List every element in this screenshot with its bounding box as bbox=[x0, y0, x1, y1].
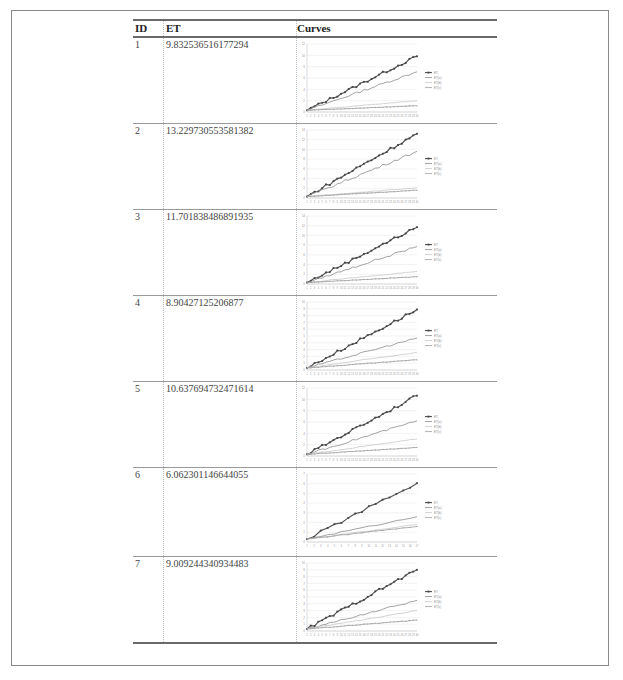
svg-text:3: 3 bbox=[303, 609, 305, 613]
svg-text:ET(b): ET(b) bbox=[434, 81, 442, 85]
svg-text:ET(c): ET(c) bbox=[434, 516, 441, 520]
results-table: ID ET Curves 1 9.832536516177294 0246810… bbox=[133, 19, 497, 644]
svg-text:9: 9 bbox=[337, 200, 339, 204]
svg-text:1: 1 bbox=[306, 372, 308, 376]
svg-text:8: 8 bbox=[333, 458, 335, 462]
curve-chart: 0246810121412345678910111213141516171819… bbox=[297, 124, 473, 208]
table-row: 2 13.229730553581382 0246810121412345678… bbox=[133, 124, 497, 210]
svg-text:14: 14 bbox=[302, 128, 306, 132]
svg-text:7: 7 bbox=[329, 200, 331, 204]
svg-text:2: 2 bbox=[303, 443, 305, 447]
svg-text:3: 3 bbox=[320, 544, 322, 548]
svg-text:8: 8 bbox=[303, 65, 305, 69]
svg-text:4: 4 bbox=[303, 177, 305, 181]
svg-text:9: 9 bbox=[337, 458, 339, 462]
svg-text:3: 3 bbox=[314, 200, 316, 204]
svg-text:2: 2 bbox=[313, 544, 315, 548]
svg-text:0: 0 bbox=[303, 540, 305, 544]
svg-text:2: 2 bbox=[303, 272, 305, 276]
svg-text:6: 6 bbox=[303, 588, 305, 592]
svg-text:9: 9 bbox=[337, 286, 339, 290]
svg-text:ET: ET bbox=[434, 243, 438, 247]
svg-text:2: 2 bbox=[310, 200, 312, 204]
cell-et: 8.90427125206877 bbox=[164, 296, 297, 382]
svg-text:ET: ET bbox=[434, 415, 438, 419]
svg-text:5: 5 bbox=[321, 633, 323, 637]
cell-et: 9.832536516177294 bbox=[164, 37, 297, 124]
cell-curves: 0246810121234567891011121314151617181920… bbox=[297, 37, 498, 124]
svg-text:7: 7 bbox=[303, 321, 305, 325]
curve-chart: 0246810121412345678910111213141516171819… bbox=[297, 210, 473, 294]
cell-curves: 0123456789101234567891011121314151617181… bbox=[297, 296, 498, 382]
svg-text:5: 5 bbox=[321, 200, 323, 204]
table-row: 7 9.009244340934483 01234567891012345678… bbox=[133, 557, 497, 644]
svg-text:1: 1 bbox=[306, 114, 308, 118]
header-et: ET bbox=[164, 20, 297, 37]
table-header-row: ID ET Curves bbox=[133, 20, 497, 37]
svg-text:6: 6 bbox=[325, 200, 327, 204]
svg-text:8: 8 bbox=[303, 157, 305, 161]
svg-text:4: 4 bbox=[303, 263, 305, 267]
header-curves: Curves bbox=[297, 20, 498, 37]
cell-id: 2 bbox=[133, 124, 164, 210]
svg-text:2: 2 bbox=[310, 633, 312, 637]
svg-text:5: 5 bbox=[334, 544, 336, 548]
svg-text:1: 1 bbox=[306, 200, 308, 204]
svg-text:9: 9 bbox=[303, 307, 305, 311]
svg-text:ET: ET bbox=[434, 329, 438, 333]
svg-text:4: 4 bbox=[318, 200, 320, 204]
svg-text:ET(a): ET(a) bbox=[434, 595, 442, 599]
svg-text:6: 6 bbox=[303, 482, 305, 486]
svg-text:3: 3 bbox=[314, 458, 316, 462]
cell-et: 9.009244340934483 bbox=[164, 557, 297, 644]
svg-text:14: 14 bbox=[302, 214, 306, 218]
curve-chart: 0246810121234567891011121314151617181920… bbox=[297, 38, 473, 122]
svg-text:1: 1 bbox=[303, 361, 305, 365]
svg-text:12: 12 bbox=[302, 138, 306, 142]
svg-text:9: 9 bbox=[337, 633, 339, 637]
svg-text:8: 8 bbox=[333, 114, 335, 118]
cell-curves: 0246810121412345678910111213141516171819… bbox=[297, 210, 498, 296]
svg-text:30: 30 bbox=[416, 372, 419, 376]
svg-text:13: 13 bbox=[388, 544, 391, 548]
svg-text:5: 5 bbox=[321, 114, 323, 118]
svg-text:8: 8 bbox=[333, 200, 335, 204]
svg-text:9: 9 bbox=[303, 568, 305, 572]
svg-text:8: 8 bbox=[333, 286, 335, 290]
svg-text:2: 2 bbox=[303, 355, 305, 359]
svg-text:8: 8 bbox=[303, 243, 305, 247]
table-row: 1 9.832536516177294 02468101212345678910… bbox=[133, 37, 497, 124]
svg-text:4: 4 bbox=[303, 432, 305, 436]
svg-text:4: 4 bbox=[303, 602, 305, 606]
svg-text:1: 1 bbox=[306, 458, 308, 462]
svg-text:ET(b): ET(b) bbox=[434, 425, 442, 429]
svg-text:ET(a): ET(a) bbox=[434, 248, 442, 252]
cell-id: 1 bbox=[133, 37, 164, 124]
svg-text:10: 10 bbox=[302, 148, 306, 152]
cell-id: 3 bbox=[133, 210, 164, 296]
svg-text:ET(c): ET(c) bbox=[434, 258, 441, 262]
svg-text:4: 4 bbox=[303, 88, 305, 92]
svg-text:5: 5 bbox=[321, 458, 323, 462]
svg-text:5: 5 bbox=[303, 334, 305, 338]
svg-text:1: 1 bbox=[303, 530, 305, 534]
cell-curves: 0123456789101234567891011121314151617181… bbox=[297, 557, 498, 644]
svg-text:8: 8 bbox=[303, 575, 305, 579]
svg-text:7: 7 bbox=[303, 582, 305, 586]
svg-text:ET(b): ET(b) bbox=[434, 339, 442, 343]
svg-text:10: 10 bbox=[302, 234, 306, 238]
svg-text:0: 0 bbox=[303, 196, 305, 200]
svg-text:ET(a): ET(a) bbox=[434, 420, 442, 424]
svg-text:ET(a): ET(a) bbox=[434, 162, 442, 166]
curve-chart: 012345671234567891011121314151617ETET(a)… bbox=[297, 468, 473, 552]
svg-text:6: 6 bbox=[303, 167, 305, 171]
svg-text:0: 0 bbox=[303, 454, 305, 458]
svg-text:4: 4 bbox=[303, 341, 305, 345]
svg-text:5: 5 bbox=[303, 492, 305, 496]
svg-text:4: 4 bbox=[318, 372, 320, 376]
table-row: 4 8.90427125206877 012345678910123456789… bbox=[133, 296, 497, 382]
svg-text:4: 4 bbox=[318, 458, 320, 462]
svg-text:4: 4 bbox=[318, 286, 320, 290]
svg-text:12: 12 bbox=[302, 386, 306, 390]
svg-text:30: 30 bbox=[416, 114, 419, 118]
